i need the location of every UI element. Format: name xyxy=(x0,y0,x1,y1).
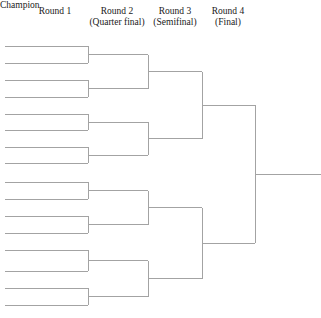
champion-label: Champion xyxy=(0,0,40,11)
tournament-bracket-diagram: Round 1Round 2(Quarter final)Round 3(Sem… xyxy=(0,0,321,318)
bracket-lines xyxy=(0,0,321,318)
